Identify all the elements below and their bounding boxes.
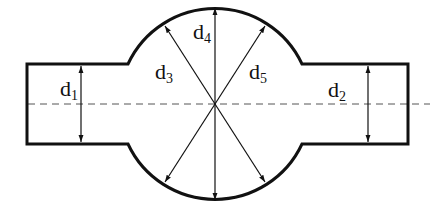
label-d3: d3 bbox=[155, 61, 173, 86]
pipe-bulge-diagram bbox=[0, 0, 445, 208]
label-d1-sub: 1 bbox=[71, 88, 78, 103]
label-d4: d4 bbox=[193, 21, 211, 46]
label-d5-base: d bbox=[249, 59, 260, 84]
label-d4-sub: 4 bbox=[204, 31, 211, 46]
label-d3-sub: 3 bbox=[166, 71, 173, 86]
label-d2-base: d bbox=[328, 77, 339, 102]
label-d1: d1 bbox=[60, 78, 78, 103]
label-d2-sub: 2 bbox=[339, 89, 346, 104]
label-d2: d2 bbox=[328, 79, 346, 104]
label-d3-base: d bbox=[155, 59, 166, 84]
label-d4-base: d bbox=[193, 19, 204, 44]
outline-bottom bbox=[27, 104, 408, 199]
outline-top bbox=[27, 9, 408, 104]
label-d5: d5 bbox=[249, 61, 267, 86]
label-d1-base: d bbox=[60, 76, 71, 101]
label-d5-sub: 5 bbox=[260, 71, 267, 86]
